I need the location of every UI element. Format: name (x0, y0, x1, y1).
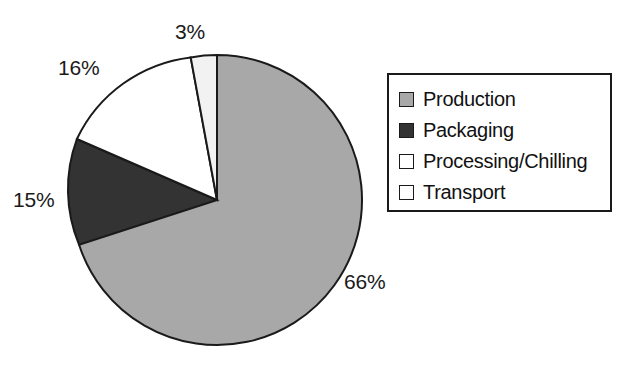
legend-label-production: Production (423, 88, 516, 111)
legend-label-processing: Processing/Chilling (423, 150, 587, 173)
pie-label-packaging: 15% (13, 188, 54, 212)
legend-label-transport: Transport (423, 181, 505, 204)
legend-swatch-icon (399, 123, 414, 138)
legend-swatch-icon (399, 185, 414, 200)
pie-chart-figure: 3% 16% 15% 66% Production Packaging Proc… (0, 0, 630, 375)
legend-item-processing: Processing/Chilling (399, 146, 610, 177)
legend-swatch-icon (399, 154, 414, 169)
legend-item-transport: Transport (399, 177, 610, 208)
pie-label-production: 66% (344, 270, 385, 294)
legend-item-packaging: Packaging (399, 115, 610, 146)
pie-label-transport: 3% (175, 20, 205, 44)
pie-label-processing: 16% (58, 56, 99, 80)
legend-item-production: Production (399, 84, 610, 115)
legend-label-packaging: Packaging (423, 119, 514, 142)
chart-legend: Production Packaging Processing/Chilling… (387, 73, 612, 212)
legend-swatch-icon (399, 92, 414, 107)
